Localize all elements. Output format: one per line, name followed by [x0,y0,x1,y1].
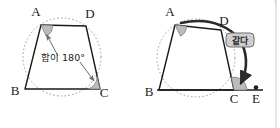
vertex-label-b-left: B [11,83,20,98]
vertex-label-e-right: E [252,91,260,106]
equal-badge-label: 같다 [232,35,249,46]
vertex-label-a-left: A [31,4,41,19]
vertex-label-b-right: B [145,84,154,99]
vertex-label-c-left: C [100,85,109,100]
geometry-figure-panel: 합이 180° A D B C 같다 A D B C E [0,0,280,128]
vertex-label-a-right: A [165,4,175,19]
geometry-diagram-svg: 합이 180° A D B C 같다 A D B C E [0,0,280,128]
vertex-label-d-left: D [85,6,94,21]
point-marker-e [254,85,258,89]
vertex-label-c-right: C [230,91,239,106]
sum-180-annotation-label: 합이 180° [41,52,85,63]
vertex-label-d-right: D [219,13,228,28]
canvas-background [0,0,280,128]
